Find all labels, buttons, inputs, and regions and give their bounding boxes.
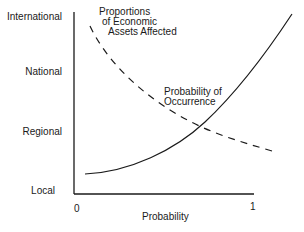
y-label-regional: Regional	[0, 126, 62, 137]
annotation-solid-line2: Occurrence	[164, 97, 216, 108]
x-axis-label: Probability	[142, 211, 189, 222]
x-tick-1: 1	[250, 201, 256, 212]
y-label-international: International	[0, 11, 62, 22]
x-tick-0: 0	[74, 203, 80, 214]
annotation-dashed-line3: Assets Affected	[108, 27, 177, 38]
y-label-local: Local	[0, 185, 55, 196]
y-label-national: National	[0, 66, 62, 77]
